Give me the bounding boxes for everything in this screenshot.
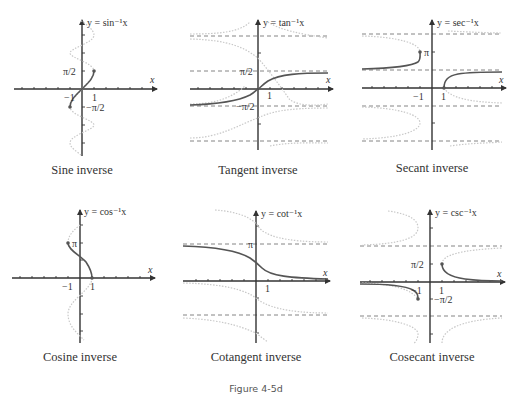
y-tick-label-pi: π [248,239,253,250]
x-tick-label-1: 1 [441,91,446,102]
x-tick-label-1: 1 [267,90,272,101]
equation-label: y = cot⁻¹x [261,208,302,219]
equation-label: y = tan⁻¹x [263,17,304,28]
x-tick-label-neg1: −1 [411,285,422,296]
panel-tangent-inverse: y = tan⁻¹x x 1 π/2 −π/2 Tangent inverse [190,17,333,177]
endpoint-dot [442,86,446,90]
endpoint-dot [418,50,422,54]
x-axis-label: x [322,267,328,278]
figure-canvas: y = sin⁻¹x x −1 1 π/2 −π/2 Sine inverse … [0,0,511,399]
endpoint-dot [90,276,94,280]
panel-caption: Sine inverse [51,163,113,177]
endpoint-dot [416,297,420,301]
x-axis-label: x [147,264,153,275]
panel-caption: Tangent inverse [218,163,298,177]
x-axis-label: x [496,268,502,279]
equation-label: y = cos⁻¹x [84,206,126,217]
figure-caption: Figure 4-5d [229,383,283,394]
y-tick-label-pi-half: π/2 [240,66,253,77]
x-tick-label-1: 1 [265,283,270,294]
y-tick-label-neg-pi-half: −π/2 [86,102,104,113]
panel-caption: Cotangent inverse [211,350,302,364]
x-tick-label-neg1: −1 [413,91,424,102]
panel-secant-inverse: y = sec⁻¹x x −1 1 π Secant inverse [362,17,506,175]
endpoint-dot [440,262,444,266]
endpoint-dot [68,105,72,109]
panel-sine-inverse: y = sin⁻¹x x −1 1 π/2 −π/2 Sine inverse [14,17,157,177]
x-tick-label-1: 1 [90,281,95,292]
panel-caption: Cosecant inverse [389,350,474,364]
y-tick-label-pi: π [72,238,77,249]
endpoint-dot [66,241,70,245]
tangent-reflection-dotted [190,22,328,146]
x-tick-label-neg1: −1 [64,92,75,103]
equation-label: y = sin⁻¹x [87,17,128,28]
panel-cotangent-inverse: y = cot⁻¹x x 1 π Cotangent inverse [183,208,330,364]
x-axis-label: x [498,74,504,85]
panel-cosine-inverse: y = cos⁻¹x x −1 1 π Cosine inverse [12,206,155,364]
panel-caption: Cosine inverse [43,350,117,364]
panel-cosecant-inverse: y = csc⁻¹x x −1 1 π/2 −π/2 Cosecant inve… [360,207,505,364]
y-tick-label-pi-half: π/2 [63,66,76,77]
arcsec-right-branch [444,72,502,88]
cosecant-reflection-dotted [362,211,502,343]
arcsec-left-branch [362,52,420,69]
y-tick-label-neg-pi-half: −π/2 [236,101,254,112]
endpoint-dot [92,69,96,73]
y-tick-label-neg-pi-half: −π/2 [434,294,452,305]
arccsc-right-branch [442,264,502,281]
y-tick-label-pi: π [424,47,429,58]
panel-caption: Secant inverse [396,161,469,175]
y-tick-label-pi-half: π/2 [411,259,424,270]
x-axis-label: x [149,74,155,85]
equation-label: y = csc⁻¹x [435,207,477,218]
x-axis-label: x [325,74,331,85]
x-tick-label-neg1: −1 [62,281,73,292]
equation-label: y = sec⁻¹x [437,17,479,28]
